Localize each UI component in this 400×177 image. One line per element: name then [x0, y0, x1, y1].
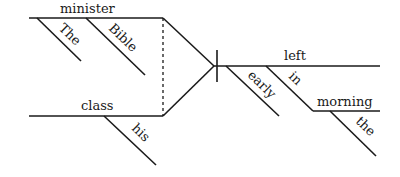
word-left: left [284, 48, 307, 63]
word-the-cap: The [56, 20, 84, 48]
modifier-line-his [104, 116, 156, 165]
word-his: his [129, 120, 153, 144]
sentence-diagram: minister The Bible class his left early … [0, 0, 400, 177]
word-minister: minister [60, 1, 116, 16]
word-the: the [353, 113, 379, 139]
word-class: class [81, 98, 114, 113]
word-in: in [286, 68, 306, 88]
fork-line-top [163, 18, 214, 66]
word-bible: Bible [106, 20, 141, 55]
word-morning: morning [317, 94, 373, 109]
word-early: early [245, 67, 280, 101]
fork-line-bottom [163, 66, 214, 116]
